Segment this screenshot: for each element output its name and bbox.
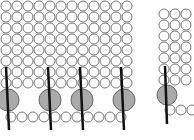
lipid-circle [67, 12, 77, 22]
lipid-circle [67, 78, 77, 88]
lipid-circle [181, 64, 191, 74]
lipid-circle [159, 20, 169, 30]
lipid-circle [56, 67, 66, 77]
lipid-circle [1, 45, 11, 55]
lipid-circle [1, 56, 11, 66]
lipid-circle [34, 34, 44, 44]
lipid-circle [78, 34, 88, 44]
lipid-circle [34, 23, 44, 33]
lipid-circle [170, 53, 180, 63]
rod-line [165, 66, 167, 124]
lipid-circle [122, 34, 132, 44]
lipid-circle [34, 12, 44, 22]
lipid-circle [170, 75, 180, 85]
lipid-circle [78, 45, 88, 55]
lipid-circle [78, 56, 88, 66]
lipid-circle [181, 9, 191, 19]
lipid-circle [100, 34, 110, 44]
lipid-circle [39, 112, 49, 122]
lipid-circle [100, 45, 110, 55]
lipid-circle [67, 34, 77, 44]
lipid-circle [181, 42, 191, 52]
lipid-circle [72, 112, 82, 122]
lipid-circle [56, 12, 66, 22]
lipid-circle [23, 45, 33, 55]
lipid-circle [56, 78, 66, 88]
lipid-circle [100, 67, 110, 77]
lipid-circle [89, 34, 99, 44]
lipid-circle [89, 67, 99, 77]
lipid-circle [111, 78, 121, 88]
lipid-circle [105, 112, 115, 122]
lipid-circle [1, 1, 11, 11]
lipid-circle [181, 75, 191, 85]
lipid-circle [111, 12, 121, 22]
lipid-circle [34, 1, 44, 11]
lipid-circle [170, 64, 180, 74]
lipid-circle [159, 42, 169, 52]
lipid-circle [1, 34, 11, 44]
lipid-circle [1, 23, 11, 33]
lipid-circle [111, 1, 121, 11]
lipid-circle [45, 23, 55, 33]
lipid-circle [45, 34, 55, 44]
lipid-circle [12, 34, 22, 44]
lipid-circle [100, 56, 110, 66]
lipid-circle [122, 45, 132, 55]
lipid-circle [89, 23, 99, 33]
lipid-circle [34, 56, 44, 66]
lipid-circle [89, 78, 99, 88]
membrane-diagram [0, 0, 194, 140]
lipid-circle [100, 12, 110, 22]
lipid-circle [122, 23, 132, 33]
lipid-circle [45, 12, 55, 22]
lipid-circle [122, 1, 132, 11]
lipid-circle [23, 34, 33, 44]
lipid-circle [122, 12, 132, 22]
lipid-circle [159, 75, 169, 85]
lipid-circle [111, 67, 121, 77]
lipid-circle [89, 56, 99, 66]
lipid-circle [111, 45, 121, 55]
lipid-circle [67, 56, 77, 66]
lipid-circle [111, 23, 121, 33]
lipid-circle [12, 23, 22, 33]
lipid-circle [67, 45, 77, 55]
lipid-circle [170, 42, 180, 52]
lipid-circle [12, 12, 22, 22]
lipid-circle [61, 112, 71, 122]
lipid-circle [176, 105, 186, 115]
lipid-circle [45, 45, 55, 55]
lipid-circle [89, 1, 99, 11]
lipid-circle [170, 31, 180, 41]
lipid-circle [100, 23, 110, 33]
lipid-circle [187, 105, 194, 115]
lipid-circle [45, 56, 55, 66]
lipid-circle [67, 1, 77, 11]
lipid-circle [89, 45, 99, 55]
lipid-circle [56, 45, 66, 55]
lipid-circle [56, 23, 66, 33]
lipid-circle [170, 9, 180, 19]
lipid-circle [12, 1, 22, 11]
diagram-canvas [0, 0, 194, 140]
lipid-circle [67, 67, 77, 77]
lipid-circle [23, 78, 33, 88]
lipid-circle [122, 67, 132, 77]
lipid-circle [181, 53, 191, 63]
lipid-circle [17, 112, 27, 122]
lipid-circle [12, 78, 22, 88]
lipid-circle [34, 67, 44, 77]
lipid-circle [78, 12, 88, 22]
lipid-circle [34, 78, 44, 88]
lipid-circle [122, 78, 132, 88]
lipid-circle [111, 56, 121, 66]
lipid-circle [45, 1, 55, 11]
lipid-circle [94, 112, 104, 122]
lipid-circle [23, 1, 33, 11]
lipid-circle [159, 53, 169, 63]
lipid-circle [181, 20, 191, 30]
lipid-circle [159, 31, 169, 41]
lipid-circle [100, 1, 110, 11]
lipid-circle [34, 45, 44, 55]
